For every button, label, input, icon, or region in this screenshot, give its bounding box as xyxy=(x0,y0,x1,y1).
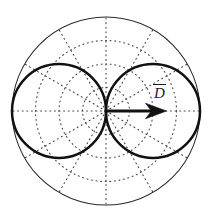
radial-gridline-210 xyxy=(25,111,106,158)
radial-gridline-150 xyxy=(25,64,106,111)
direction-vector-arrow xyxy=(105,103,167,119)
vector-d-label: D xyxy=(153,84,166,101)
polar-plot-canvas xyxy=(0,0,214,219)
origin-point xyxy=(104,109,107,112)
vector-d-glyph: D xyxy=(153,86,166,101)
polar-pattern-figure: D xyxy=(0,0,214,219)
